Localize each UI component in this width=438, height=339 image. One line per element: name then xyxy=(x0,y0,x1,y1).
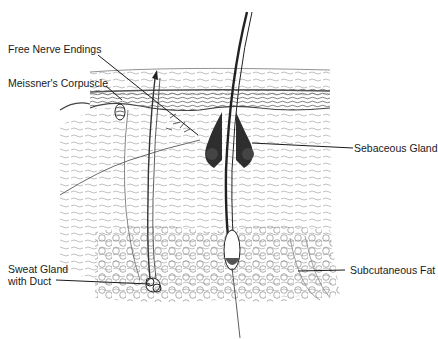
label-subcutaneous-fat: Subcutaneous Fat xyxy=(350,264,435,276)
label-sweat-gland-line2: with Duct xyxy=(8,275,51,287)
label-sebaceous-gland: Sebaceous Gland xyxy=(354,142,437,154)
epidermis-layer xyxy=(60,68,330,110)
label-meissners-corpuscle: Meissner's Corpuscle xyxy=(8,77,108,89)
skin-diagram: Free Nerve Endings Meissner's Corpuscle … xyxy=(0,0,438,339)
subcutaneous-fat-layer xyxy=(95,226,340,302)
label-sweat-gland-line1: Sweat Gland xyxy=(8,263,68,275)
label-free-nerve-endings: Free Nerve Endings xyxy=(8,43,101,55)
